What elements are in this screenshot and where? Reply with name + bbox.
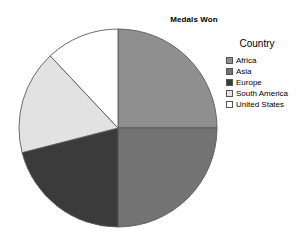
legend-item-label: United States — [236, 100, 284, 109]
chart-legend: Country AfricaAsiaEuropeSouth AmericaUni… — [226, 38, 296, 110]
legend-swatch — [226, 79, 233, 86]
legend-item-label: Africa — [236, 56, 256, 65]
legend-item[interactable]: United States — [226, 99, 296, 110]
pie-chart-figure: Medals Won Country AfricaAsiaEuropeSouth… — [0, 0, 296, 251]
legend-item-label: Asia — [236, 67, 252, 76]
pie-slices-group — [19, 29, 217, 227]
chart-title: Medals Won — [148, 15, 240, 25]
pie-slice[interactable] — [118, 29, 217, 128]
legend-item[interactable]: South America — [226, 88, 296, 99]
legend-item-label: South America — [236, 89, 288, 98]
legend-item[interactable]: Africa — [226, 55, 296, 66]
legend-item-label: Europe — [236, 78, 262, 87]
legend-swatch — [226, 57, 233, 64]
legend-item-list: AfricaAsiaEuropeSouth AmericaUnited Stat… — [226, 55, 296, 110]
legend-item[interactable]: Europe — [226, 77, 296, 88]
legend-title: Country — [226, 38, 288, 50]
legend-item[interactable]: Asia — [226, 66, 296, 77]
legend-swatch — [226, 90, 233, 97]
legend-swatch — [226, 68, 233, 75]
legend-swatch — [226, 101, 233, 108]
pie-slice[interactable] — [118, 128, 217, 227]
